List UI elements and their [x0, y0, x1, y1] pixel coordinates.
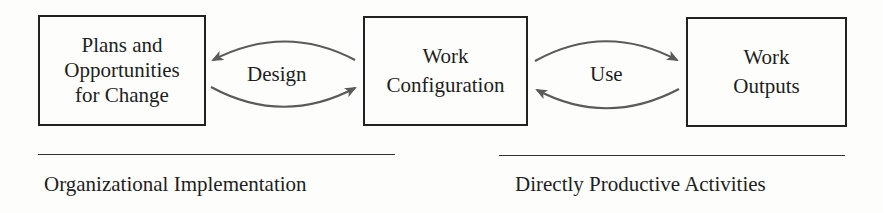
use-arrow-to-outputs	[535, 41, 677, 61]
group-divider-productive	[499, 155, 845, 156]
design-arrow-to-configuration	[211, 87, 355, 107]
node-text: for Change	[75, 83, 169, 108]
group-label-organizational-implementation: Organizational Implementation	[44, 172, 307, 196]
node-text: Plans and	[81, 33, 162, 58]
design-arrow-to-plans	[213, 42, 355, 61]
group-divider-organizational	[38, 154, 395, 155]
node-text: Outputs	[733, 74, 800, 99]
use-arrow-to-configuration	[537, 89, 679, 108]
edge-label-use: Use	[590, 62, 623, 86]
node-work-outputs: Work Outputs	[686, 17, 847, 127]
node-text: Work	[743, 45, 789, 70]
node-work-configuration: Work Configuration	[363, 16, 528, 126]
node-text: Opportunities	[64, 58, 180, 83]
group-label-directly-productive-activities: Directly Productive Activities	[515, 172, 766, 196]
edge-label-design: Design	[247, 62, 307, 86]
node-text: Configuration	[387, 73, 505, 98]
node-text: Work	[422, 44, 468, 69]
node-plans-and-opportunities: Plans and Opportunities for Change	[38, 15, 206, 126]
